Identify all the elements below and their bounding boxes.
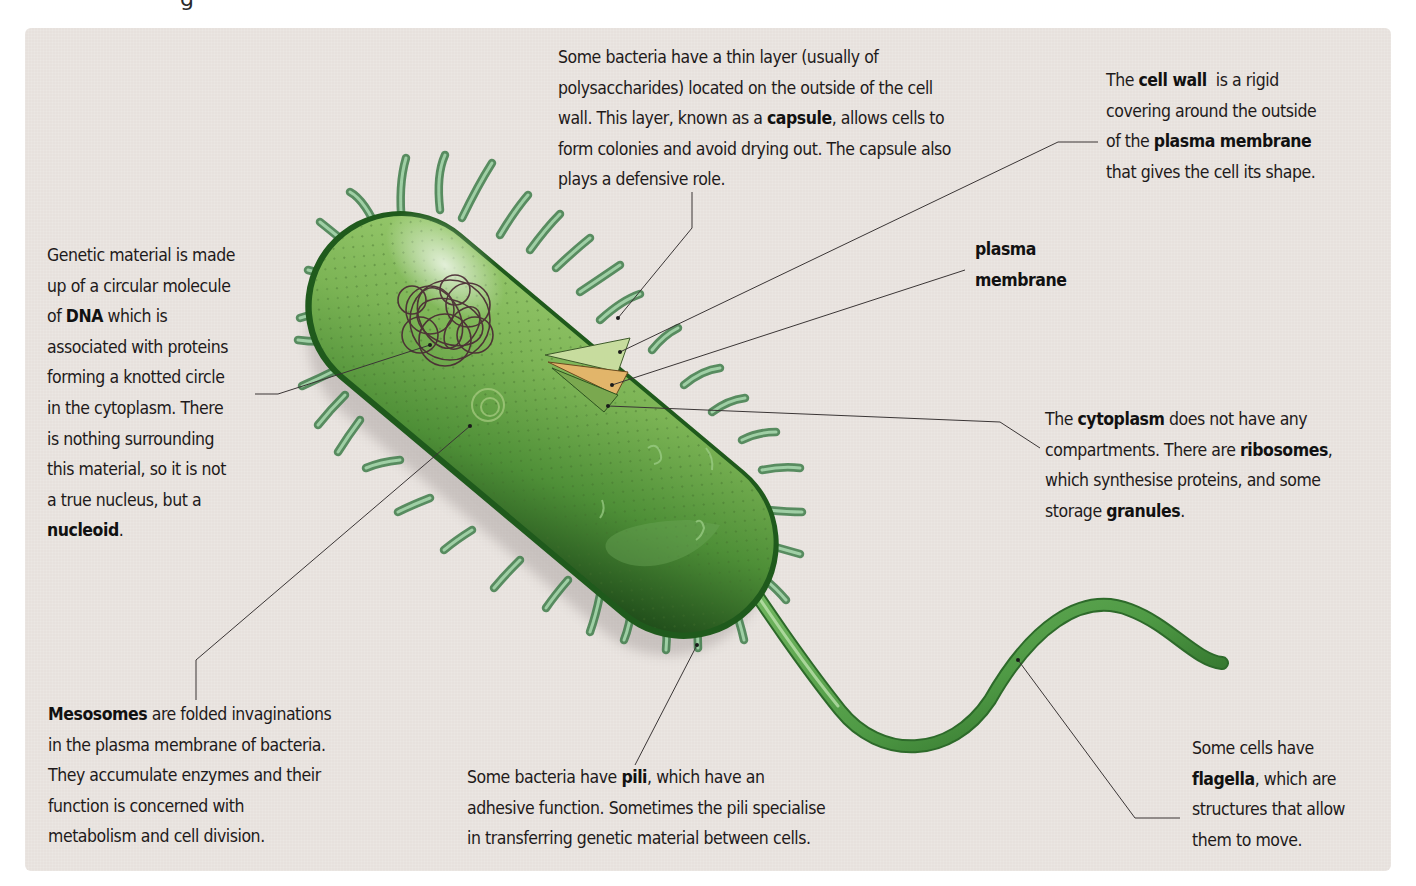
- label-line: of the plasma membrane: [1106, 126, 1376, 157]
- pili-label: Some bacteria have pili, which have an a…: [467, 762, 867, 854]
- term-pili: pili: [621, 767, 647, 787]
- label-line: plasma: [975, 234, 1115, 265]
- label-line: storage granules.: [1045, 496, 1385, 527]
- capsule-label: Some bacteria have a thin layer (usually…: [558, 42, 1008, 195]
- label-line: compartments. There are ribosomes,: [1045, 435, 1385, 466]
- label-line: of DNA which is: [47, 301, 277, 332]
- label-line: nucleoid.: [47, 515, 277, 546]
- term-nucleoid: nucleoid: [47, 520, 119, 540]
- label-line: Some bacteria have pili, which have an: [467, 762, 867, 793]
- label-line: up of a circular molecule: [47, 271, 277, 302]
- mesosomes-label: Mesosomes are folded invaginations in th…: [48, 699, 378, 852]
- label-line: wall. This layer, known as a capsule, al…: [558, 103, 1008, 134]
- term-granules: granules: [1106, 501, 1180, 521]
- label-line: Some bacteria have a thin layer (usually…: [558, 42, 1008, 73]
- leader-flagella: [1018, 660, 1180, 818]
- label-line: polysaccharides) located on the outside …: [558, 73, 1008, 104]
- label-line: this material, so it is not: [47, 454, 277, 485]
- label-line: adhesive function. Sometimes the pili sp…: [467, 793, 867, 824]
- label-line: The cell wall is a rigid: [1106, 65, 1376, 96]
- label-line: function is concerned with: [48, 791, 378, 822]
- label-line: membrane: [975, 265, 1115, 296]
- label-line: in transferring genetic material between…: [467, 823, 867, 854]
- label-line: in the plasma membrane of bacteria.: [48, 730, 378, 761]
- leader-plasma-membrane: [612, 270, 965, 385]
- term-capsule: capsule: [767, 108, 832, 128]
- cell-body: [266, 172, 817, 678]
- term-cytoplasm: cytoplasm: [1077, 409, 1164, 429]
- term-ribosomes: ribosomes: [1240, 440, 1328, 460]
- flagella-label: Some cells have flagella, which are stru…: [1192, 733, 1382, 855]
- label-line: Mesosomes are folded invaginations: [48, 699, 378, 730]
- label-line: They accumulate enzymes and their: [48, 760, 378, 791]
- label-line: is nothing surrounding: [47, 424, 277, 455]
- label-line: associated with proteins: [47, 332, 277, 363]
- label-line: covering around the outside: [1106, 96, 1376, 127]
- term-flagella: flagella: [1192, 769, 1255, 789]
- nucleoid-label: Genetic material is made up of a circula…: [47, 240, 277, 546]
- term-plasma-membrane: plasma membrane: [1154, 131, 1311, 151]
- leader-pili: [635, 645, 697, 765]
- cell-wall-label: The cell wall is a rigid covering around…: [1106, 65, 1376, 187]
- label-line: The cytoplasm does not have any: [1045, 404, 1385, 435]
- cytoplasm-label: The cytoplasm does not have any compartm…: [1045, 404, 1385, 526]
- term-dna: DNA: [66, 306, 103, 326]
- term-mesosomes: Mesosomes: [48, 704, 147, 724]
- label-line: that gives the cell its shape.: [1106, 157, 1376, 188]
- label-line: structures that allow: [1192, 794, 1382, 825]
- label-line: forming a knotted circle: [47, 362, 277, 393]
- label-line: metabolism and cell division.: [48, 821, 378, 852]
- term-cell-wall: cell wall: [1138, 70, 1206, 90]
- label-line: Some cells have: [1192, 733, 1382, 764]
- label-line: plays a defensive role.: [558, 164, 1008, 195]
- flagellum: [725, 548, 1222, 746]
- plasma-membrane-label: plasma membrane: [975, 234, 1115, 295]
- label-line: flagella, which are: [1192, 764, 1382, 795]
- label-line: them to move.: [1192, 825, 1382, 856]
- label-line: a true nucleus, but a: [47, 485, 277, 516]
- label-line: Genetic material is made: [47, 240, 277, 271]
- label-line: in the cytoplasm. There: [47, 393, 277, 424]
- label-line: form colonies and avoid drying out. The …: [558, 134, 1008, 165]
- label-line: which synthesise proteins, and some: [1045, 465, 1385, 496]
